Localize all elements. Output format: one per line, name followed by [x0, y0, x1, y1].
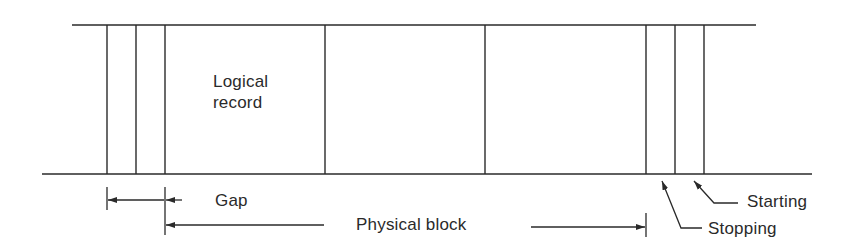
gap-label: Gap — [215, 191, 248, 211]
physical-block-label: Physical block — [356, 215, 467, 235]
starting-leader-line — [694, 181, 738, 203]
logical-record-label: Logical record — [213, 71, 268, 113]
starting-leader — [694, 181, 738, 203]
stopping-label: Stopping — [708, 219, 777, 239]
gap-dimension — [107, 187, 182, 235]
block-dividers — [107, 25, 704, 174]
diagram-canvas — [0, 0, 852, 251]
stopping-leader-line — [662, 181, 702, 228]
tape-block-diagram: Logical record Gap Physical block Starti… — [0, 0, 852, 251]
stopping-leader — [662, 181, 702, 228]
starting-label: Starting — [747, 192, 807, 212]
